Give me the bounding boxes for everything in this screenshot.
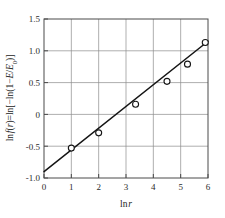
xtick-label-2: 2: [96, 182, 101, 192]
data-point: [96, 130, 102, 136]
data-point: [202, 40, 208, 46]
xtick-label-0: 0: [42, 182, 47, 192]
xtick-label-3: 3: [124, 182, 129, 192]
data-point: [164, 78, 170, 84]
data-point: [68, 145, 74, 151]
xtick-label-4: 4: [151, 182, 156, 192]
ytick-label--1.0: -1.0: [26, 173, 41, 183]
scatter-plot-svg: 1.5 1.0 0.5 0 -0.5 -1.0 0 1 2 3 4 5 6: [0, 0, 225, 218]
ytick-label-0: 0: [36, 110, 41, 120]
x-axis-title: ln r: [120, 199, 132, 209]
xtick-label-5: 5: [178, 182, 183, 192]
y-axis-title: ln f(r)=ln[−ln(1−E/E0)]: [5, 55, 18, 142]
data-point: [133, 101, 139, 107]
ytick-label--0.5: -0.5: [26, 142, 41, 152]
ytick-label-1.0: 1.0: [29, 46, 41, 56]
xtick-label-6: 6: [206, 182, 211, 192]
ytick-label-0.5: 0.5: [29, 78, 41, 88]
chart-figure: 1.5 1.0 0.5 0 -0.5 -1.0 0 1 2 3 4 5 6: [0, 0, 225, 218]
x-axis-tick-labels: 0 1 2 3 4 5 6: [42, 182, 211, 192]
xtick-label-1: 1: [69, 182, 74, 192]
data-point: [185, 61, 191, 67]
ytick-label-1.5: 1.5: [29, 14, 41, 24]
y-axis-tick-labels: 1.5 1.0 0.5 0 -0.5 -1.0: [26, 14, 41, 183]
